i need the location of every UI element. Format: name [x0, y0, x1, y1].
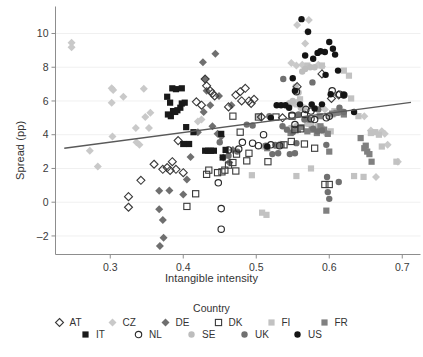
- square-marker-icon: [79, 329, 92, 340]
- data-point: [173, 86, 179, 92]
- data-point: [241, 331, 247, 337]
- data-point: [182, 100, 188, 106]
- data-point: [241, 84, 249, 92]
- data-point: [108, 132, 116, 140]
- legend-item-cz[interactable]: CZ: [106, 317, 159, 328]
- data-point: [168, 113, 174, 119]
- x-tick-label: 0.6: [322, 261, 337, 273]
- data-point: [215, 319, 221, 325]
- data-point: [325, 131, 331, 137]
- data-point: [215, 180, 221, 186]
- data-point: [222, 147, 228, 153]
- legend-item-se[interactable]: SE: [185, 329, 238, 340]
- x-tick-label: 0.5: [249, 261, 264, 273]
- data-point: [165, 186, 173, 194]
- data-point: [190, 129, 196, 135]
- y-tick-label: 6: [43, 95, 49, 107]
- data-point: [218, 226, 224, 232]
- data-point: [108, 99, 116, 107]
- data-point: [268, 319, 274, 325]
- data-point: [184, 203, 190, 209]
- circle-marker-icon: [291, 329, 304, 340]
- data-point: [135, 331, 141, 337]
- data-point: [346, 73, 352, 79]
- legend-swatch-cz: [106, 317, 119, 328]
- y-tick-label: 2: [43, 162, 49, 174]
- legend-item-us[interactable]: US: [291, 329, 344, 340]
- data-point: [86, 147, 94, 155]
- y-tick-label: 0: [43, 196, 49, 208]
- data-point: [308, 165, 314, 171]
- data-point: [379, 143, 385, 149]
- legend-swatch-uk: [238, 329, 251, 340]
- legend-swatch-nl: [132, 329, 145, 340]
- legend-label: NL: [149, 329, 162, 340]
- data-point: [246, 150, 252, 156]
- data-point: [150, 160, 158, 168]
- data-point: [326, 181, 332, 187]
- data-point: [249, 172, 255, 178]
- data-point: [319, 127, 325, 133]
- data-point: [155, 187, 163, 195]
- data-point: [199, 58, 207, 66]
- data-point: [167, 100, 173, 106]
- data-point: [358, 135, 364, 141]
- legend-item-dk[interactable]: DK: [212, 317, 265, 328]
- data-point: [188, 331, 194, 337]
- data-point: [269, 151, 275, 157]
- data-point: [140, 85, 148, 93]
- data-point: [312, 145, 318, 151]
- data-point: [323, 142, 329, 148]
- legend-item-fi[interactable]: FI: [265, 317, 318, 328]
- data-point: [301, 141, 307, 147]
- data-point: [201, 75, 209, 83]
- data-point: [68, 43, 76, 51]
- legend-item-de[interactable]: DE: [159, 317, 212, 328]
- data-point: [297, 101, 303, 107]
- data-point: [294, 331, 300, 337]
- data-point: [218, 205, 224, 211]
- data-point: [186, 141, 192, 147]
- data-point: [293, 21, 301, 29]
- data-point: [232, 91, 240, 99]
- legend-title: Country: [0, 302, 423, 314]
- legend-label: UK: [255, 329, 269, 340]
- data-point: [211, 50, 219, 58]
- legend-item-nl[interactable]: NL: [132, 329, 185, 340]
- data-point: [325, 189, 331, 195]
- legend-label: CZ: [123, 317, 136, 328]
- data-point: [155, 205, 163, 213]
- y-tick-label: 8: [43, 61, 49, 73]
- legend-item-at[interactable]: AT: [53, 317, 106, 328]
- diamond-marker-icon: [53, 317, 66, 328]
- scatter-chart-figure: –202468100.30.40.50.60.7 Spread (pp) Int…: [0, 0, 423, 357]
- data-point: [211, 148, 217, 154]
- legend-swatch-dk: [212, 317, 225, 328]
- y-tick-label: 4: [43, 128, 49, 140]
- data-point: [263, 212, 269, 218]
- data-point: [309, 101, 315, 107]
- y-tick-label: –2: [37, 230, 49, 242]
- legend-swatch-fr: [318, 317, 331, 328]
- circle-marker-icon: [132, 329, 145, 340]
- legend-item-it[interactable]: IT: [79, 329, 132, 340]
- legend-swatch-at: [53, 317, 66, 328]
- data-point: [230, 113, 236, 119]
- data-point: [145, 124, 153, 132]
- data-point: [348, 95, 354, 101]
- legend-swatch-us: [291, 329, 304, 340]
- y-tick-label: 10: [37, 27, 49, 39]
- legend-label: IT: [96, 329, 105, 340]
- data-point: [326, 148, 332, 154]
- data-point: [376, 132, 382, 138]
- data-point: [55, 319, 63, 327]
- data-point: [310, 56, 316, 62]
- legend-label: FR: [335, 317, 348, 328]
- legend-item-uk[interactable]: UK: [238, 329, 291, 340]
- legend-item-fr[interactable]: FR: [318, 317, 371, 328]
- legend-label: DE: [176, 317, 190, 328]
- data-point: [323, 208, 329, 214]
- data-point: [330, 45, 336, 51]
- legend-swatch-se: [185, 329, 198, 340]
- square-marker-icon: [318, 317, 331, 328]
